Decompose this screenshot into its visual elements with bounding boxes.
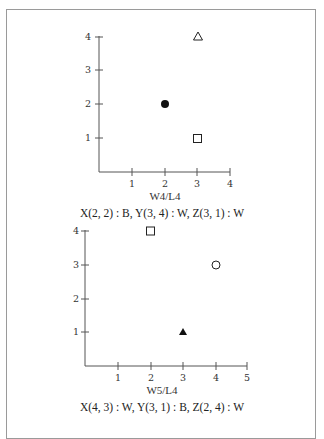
- chart-1-xtick-4: 4: [227, 178, 233, 189]
- chart-1-ytick-4: 4: [85, 31, 91, 42]
- chart-2-ytick-1: 1: [73, 326, 79, 337]
- chart-2-ytick-2: 2: [73, 293, 79, 304]
- chart-2-xlabel: W5/L4: [146, 384, 178, 396]
- chart-2: [81, 230, 247, 370]
- chart-2-caption: X(4, 3) : W, Y(3, 1) : B, Z(2, 4) : W: [80, 401, 244, 414]
- chart-2-point-z-open-square-icon: [147, 227, 155, 235]
- chart-2-xtick-2: 2: [148, 372, 154, 383]
- chart-1-xtick-2: 2: [162, 178, 168, 189]
- chart-1-point-z-open-square-icon: [194, 135, 202, 143]
- chart-1-point-x-filled-circle-icon: [161, 100, 169, 108]
- chart-2-point-x-open-circle-icon: [212, 261, 220, 269]
- chart-1-xtick-1: 1: [129, 178, 135, 189]
- chart-2-xtick-3: 3: [180, 372, 186, 383]
- chart-2-ytick-4: 4: [73, 225, 79, 236]
- chart-2-point-y-filled-triangle-icon: [179, 328, 187, 335]
- chart-1-xtick-3: 3: [194, 178, 200, 189]
- chart-1-ytick-1: 1: [85, 132, 91, 143]
- chart-2-xtick-1: 1: [115, 372, 121, 383]
- chart-1-ytick-3: 3: [85, 64, 91, 75]
- chart-1-ytick-2: 2: [85, 98, 91, 109]
- chart-1-xlabel: W4/L4: [149, 190, 181, 202]
- chart-2-ytick-3: 3: [73, 259, 79, 270]
- chart-1-caption: X(2, 2) : B, Y(3, 4) : W, Z(3, 1) : W: [80, 207, 244, 220]
- chart-2-xtick-4: 4: [213, 372, 219, 383]
- chart-2-xtick-5: 5: [244, 372, 250, 383]
- chart-1-point-y-open-triangle-icon: [194, 32, 203, 40]
